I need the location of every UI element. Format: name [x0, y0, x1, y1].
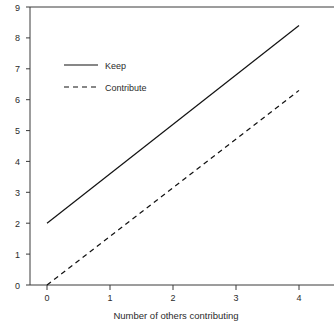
x-axis-title: Number of others contributing: [113, 310, 238, 321]
y-tick-label: 3: [15, 188, 20, 198]
x-tick-label: 3: [233, 293, 238, 303]
legend-label-keep: Keep: [105, 61, 126, 71]
y-axis-ticks: [26, 7, 30, 285]
y-tick-label: 7: [15, 64, 20, 74]
series-line-keep: [47, 26, 299, 224]
x-tick-label: 0: [44, 293, 49, 303]
y-axis-tick-labels: 9 8 7 6 5 4 3 2 1 0: [15, 3, 20, 291]
x-tick-label: 4: [296, 293, 301, 303]
x-tick-label: 1: [107, 293, 112, 303]
x-tick-label: 2: [170, 293, 175, 303]
series-line-contribute: [47, 90, 299, 285]
y-tick-label: 8: [15, 33, 20, 43]
y-tick-label: 9: [15, 3, 20, 13]
y-tick-label: 0: [15, 281, 20, 291]
y-tick-label: 1: [15, 250, 20, 260]
y-tick-label: 2: [15, 219, 20, 229]
y-tick-label: 5: [15, 126, 20, 136]
chart-container: 9 8 7 6 5 4 3 2 1 0 0 1 2 3 4 Numb: [0, 0, 336, 324]
legend-label-contribute: Contribute: [105, 83, 147, 93]
y-tick-label: 6: [15, 95, 20, 105]
x-axis-ticks: [47, 285, 299, 290]
chart-legend: Keep Contribute: [64, 61, 147, 93]
y-tick-label: 4: [15, 157, 20, 167]
x-axis-tick-labels: 0 1 2 3 4: [44, 293, 301, 303]
chart-canvas: 9 8 7 6 5 4 3 2 1 0 0 1 2 3 4 Numb: [0, 0, 336, 324]
